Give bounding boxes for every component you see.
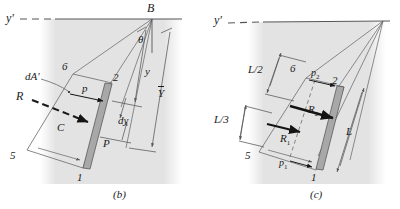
- panel-b-angle-theta-label: θ: [138, 34, 143, 45]
- panel-b-corner-2-label: 2: [113, 72, 119, 83]
- panel-b-corner-1-label: 1: [77, 172, 83, 183]
- panel-b-resultant-label: R: [16, 90, 23, 102]
- panel-c-force-R1-text: R1: [280, 132, 290, 144]
- panel-b-strip-height-label: dy: [118, 115, 128, 126]
- panel-c-force-R2-label: R2: [308, 104, 318, 118]
- panel-b-fluid-shading: [40, 19, 182, 188]
- panel-b-depth-ybar-label: Y: [158, 88, 164, 99]
- panel-b-point-b-label: B: [147, 2, 154, 14]
- panel-c-pressure-p2-text: p2: [311, 67, 320, 78]
- panel-b-area-element-label: dA': [25, 71, 40, 82]
- figure-container: y' B θ 6 2 5 1 dA' R C P p dy y Y (b) y'…: [0, 0, 400, 209]
- panel-c-dimension-L2-label: L/2: [248, 64, 263, 75]
- figure-drawing: [0, 0, 400, 209]
- panel-c-corner-1-label: 1: [311, 172, 317, 183]
- panel-b-caption: (b): [113, 189, 126, 200]
- panel-c-force-R1-label: R1: [280, 133, 290, 147]
- panel-c-dimension-L-label: L: [346, 126, 352, 137]
- panel-b-pressure-arm-label: p: [82, 83, 88, 94]
- panel-c-pressure-p1-text: p1: [279, 157, 288, 168]
- panel-b-centroid-label: C: [57, 122, 64, 133]
- panel-b-depth-ybar-text: Y: [158, 88, 164, 99]
- panel-c-dimension-L3-label: L/3: [214, 114, 229, 125]
- panel-c-corner-5-label: 5: [245, 150, 251, 161]
- panel-c-axis-label: y': [214, 14, 222, 26]
- panel-b-corner-6-label: 6: [62, 61, 68, 72]
- panel-b-corner-5-label: 5: [10, 150, 16, 161]
- panel-c-force-R2-text: R2: [308, 103, 318, 115]
- panel-c-pressure-p1-label: p1: [279, 158, 288, 171]
- panel-c-caption: (c): [310, 189, 322, 200]
- panel-b-axis-label: y': [6, 12, 14, 24]
- panel-b-pressure-label: P: [103, 138, 110, 149]
- panel-c-corner-6-label: 6: [290, 63, 296, 74]
- panel-b-depth-y-label: y: [145, 66, 150, 77]
- panel-c-pressure-p2-label: p2: [311, 68, 320, 81]
- panel-c-corner-2-label: 2: [332, 75, 338, 86]
